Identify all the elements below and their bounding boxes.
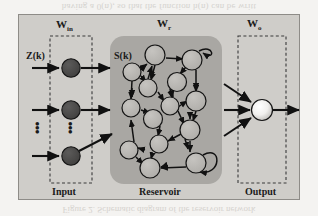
reservoir-node[interactable] <box>123 63 141 81</box>
input-nodes <box>62 59 80 165</box>
section-label-reservoir: Reservoir <box>139 186 181 197</box>
reservoir-node[interactable] <box>186 91 206 111</box>
output-incoming-arrows <box>224 84 251 136</box>
input-node[interactable] <box>62 59 80 77</box>
weight-label-reservoir: Wr <box>157 17 171 32</box>
weight-label-output: Wo <box>247 17 262 32</box>
input-node-ellipsis-icon: ••• <box>68 122 73 134</box>
reservoir-node[interactable] <box>150 135 168 153</box>
weight-label-input: Win <box>56 18 73 33</box>
section-label-output: Output <box>245 186 276 197</box>
input-node[interactable] <box>62 147 80 165</box>
reservoir-node[interactable] <box>145 45 165 65</box>
reservoir-node[interactable] <box>122 99 140 117</box>
page-bleed-bottom-text: Figure 2. Schematic diagram of the reser… <box>0 203 318 216</box>
input-signal-label: Z(k) <box>26 50 45 61</box>
reservoir-node[interactable] <box>139 79 157 97</box>
reservoir-node[interactable] <box>140 158 160 178</box>
state-signal-label: S(k) <box>114 50 132 61</box>
reservoir-node[interactable] <box>144 110 163 129</box>
reservoir-node[interactable] <box>120 141 138 159</box>
figure-container: having a 0(n), so that the function h(n)… <box>0 0 318 216</box>
input-outgoing-arrows <box>79 68 112 151</box>
reservoir-node[interactable] <box>180 120 200 140</box>
reservoir-node[interactable] <box>182 50 202 70</box>
input-arrow-ellipsis-icon: ••• <box>35 122 40 134</box>
output-node[interactable] <box>252 100 273 121</box>
diagram-canvas <box>0 0 318 216</box>
reservoir-node[interactable] <box>186 153 206 173</box>
reservoir-node[interactable] <box>161 97 179 115</box>
section-label-input: Input <box>52 186 76 197</box>
input-incoming-arrows <box>32 68 59 156</box>
reservoir-node[interactable] <box>168 73 187 92</box>
